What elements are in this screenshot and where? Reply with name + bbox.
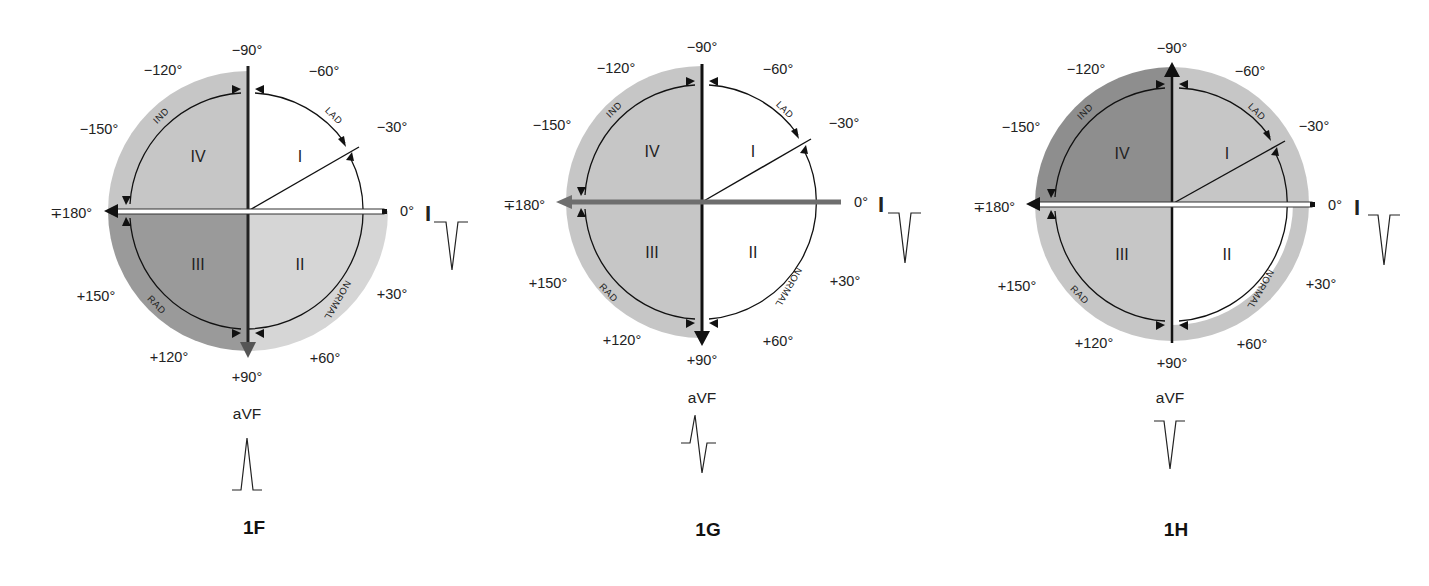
label-plus-90: +90° (1157, 355, 1187, 371)
label-plus-150: +150° (998, 278, 1036, 294)
quadrant-iv-shade (1035, 67, 1172, 204)
avf-lead-label: aVF (1156, 389, 1184, 407)
label-minus-150: −150° (1002, 119, 1040, 135)
label-plus-60: +60° (763, 333, 793, 349)
label-minus-30: −30° (829, 115, 859, 131)
lead-i-label: I (425, 201, 431, 227)
lead-i-axis-arrowhead (1026, 197, 1040, 211)
label-plus-30: +30° (377, 286, 407, 302)
quadrant-ii-label: II (749, 244, 758, 262)
quadrant-iii-label: III (1115, 246, 1128, 264)
avf-waveform-positive (232, 438, 262, 490)
lead-i-label: I (878, 192, 884, 218)
label-plus-90: +90° (232, 369, 262, 385)
label-minus-150: −150° (533, 117, 571, 133)
panel-1f: −90° −120° −60° −150° −30° ∓180° 0° I +1… (0, 0, 476, 586)
avf-waveform-negative (1154, 421, 1185, 469)
hexaxial-diagram-1g (476, 0, 952, 586)
label-plus-150: +150° (529, 275, 567, 291)
quadrant-iv-label: IV (1114, 145, 1129, 163)
label-minus-90: −90° (1157, 40, 1187, 56)
lead-i-axis-arrowhead (556, 195, 572, 209)
quadrant-ii-label: II (296, 256, 305, 274)
quadrant-iii-label: III (645, 244, 658, 262)
label-plus-120: +120° (150, 349, 188, 365)
lead-i-waveform-negative (888, 213, 921, 263)
label-minus-60: −60° (1235, 63, 1265, 79)
label-minus-120: −120° (1067, 61, 1105, 77)
panel-1g: −90° −120° −60° −150° −30° ∓180° 0° I +1… (476, 0, 952, 586)
label-plus-120: +120° (603, 332, 641, 348)
label-minus-120: −120° (144, 62, 182, 78)
panel-title: 1H (1164, 519, 1188, 541)
label-minus-90: −90° (232, 42, 262, 58)
quadrant-ii-label: II (1223, 246, 1232, 264)
avf-lead-label: aVF (233, 405, 261, 423)
lead-i-axis (1036, 202, 1312, 207)
quadrant-iii-label: III (191, 256, 204, 274)
label-plus-minus-180: ∓180° (503, 197, 545, 213)
panel-1h: −90° −120° −60° −150° −30° ∓180° 0° I +1… (952, 0, 1429, 586)
quadrant-iii-shade (108, 211, 248, 351)
quadrant-iv-label: IV (644, 143, 659, 161)
quadrant-ii-shade (248, 211, 388, 351)
label-minus-90: −90° (687, 39, 717, 55)
avf-axis-arrowhead (694, 331, 710, 346)
panel-title: 1G (695, 519, 720, 541)
label-zero: 0° (1328, 197, 1342, 213)
label-minus-30: −30° (1299, 118, 1329, 134)
lead-i-label: I (1354, 195, 1360, 221)
label-plus-minus-180: ∓180° (973, 199, 1015, 215)
label-plus-120: +120° (1075, 335, 1113, 351)
avf-waveform-biphasic (681, 415, 716, 473)
quadrant-i-shade (1172, 67, 1309, 204)
label-minus-120: −120° (597, 60, 635, 76)
label-minus-60: −60° (309, 63, 339, 79)
label-plus-150: +150° (77, 288, 115, 304)
panel-title: 1F (243, 517, 265, 539)
label-minus-30: −30° (377, 119, 407, 135)
lead-i-waveform-negative (434, 222, 468, 270)
label-minus-60: −60° (763, 61, 793, 77)
label-plus-minus-180: ∓180° (50, 205, 92, 221)
label-zero: 0° (854, 194, 868, 210)
quadrant-iii-shade (1035, 204, 1172, 341)
quadrant-iv-shade (108, 71, 248, 211)
lead-i-waveform-negative (1368, 215, 1400, 265)
avf-lead-label: aVF (688, 389, 716, 407)
quadrant-i-label: I (1225, 145, 1229, 163)
label-plus-30: +30° (830, 273, 860, 289)
lead-i-axis (112, 209, 384, 214)
quadrant-i-shade (248, 71, 388, 211)
label-plus-60: +60° (310, 350, 340, 366)
quadrant-i-label: I (298, 148, 302, 166)
quadrant-iv-label: IV (190, 148, 205, 166)
minus-30-line (702, 139, 811, 202)
label-minus-150: −150° (80, 121, 118, 137)
label-plus-90: +90° (687, 352, 717, 368)
label-plus-30: +30° (1306, 276, 1336, 292)
label-plus-60: +60° (1237, 336, 1267, 352)
quadrant-i-label: I (751, 143, 755, 161)
label-zero: 0° (400, 203, 414, 219)
